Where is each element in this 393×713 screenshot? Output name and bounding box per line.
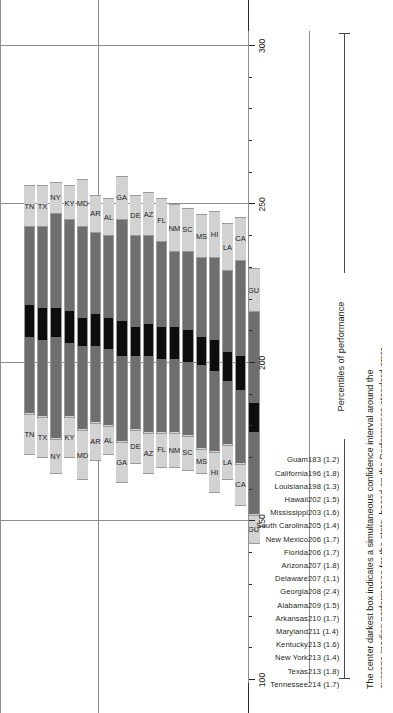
bar-label-right-TX: TX (38, 201, 47, 210)
bar-label-left-DE: DE (130, 442, 140, 451)
seg-upper-quartile-MD (78, 226, 87, 318)
seg-upper-quartile-LA (223, 270, 232, 352)
seg-confidence-interval-CA (236, 356, 245, 391)
bar-cap-left-AL: AL (103, 426, 114, 455)
bar-cap-left-TX: TX (37, 417, 48, 458)
stub-row-GA: Georgia 208 (2.4) (252, 587, 339, 596)
seg-upper-quartile-AZ (144, 235, 153, 324)
stub-frame (248, 31, 310, 683)
bar-cap-left-DE: DE (130, 430, 141, 465)
bar-cap-left-FL: FL (156, 433, 167, 468)
seg-lower-quartile-NM (170, 359, 179, 432)
seg-confidence-interval-LA (223, 352, 232, 381)
stub-state-name: Tennessee (252, 680, 308, 689)
bar-label-right-FL: FL (157, 216, 166, 225)
seg-upper-quartile-GA (117, 219, 126, 320)
stub-row-AR: Arkansas 210 (1.7) (252, 614, 339, 623)
bar-label-right-LA: LA (223, 243, 232, 252)
bar-label-left-FL: FL (157, 446, 166, 455)
bar-cap-right-TX: TX (37, 185, 48, 226)
axis-title-cap-right (339, 33, 350, 34)
stub-row-AL: Alabama 209 (1.5) (252, 601, 339, 610)
seg-upper-quartile-AR (91, 232, 100, 314)
stub-state-name: California (252, 469, 308, 478)
gridline-300 (0, 45, 248, 46)
bar-cap-right-MD: MD (77, 179, 88, 227)
bar-label-left-LA: LA (223, 458, 232, 467)
seg-upper-quartile-NM (170, 251, 179, 327)
bar-label-left-AZ: AZ (144, 449, 153, 458)
bar-cap-right-AZ: AZ (143, 192, 154, 236)
bar-label-left-AL: AL (104, 436, 113, 445)
bar-cap-left-NY: NY (50, 439, 61, 474)
seg-confidence-interval-MD (78, 318, 87, 347)
bar-label-right-AR: AR (90, 209, 100, 218)
bar-cap-left-MS: MS (196, 449, 207, 474)
bar-label-left-TN: TN (25, 430, 35, 439)
stub-state-name: Maryland (252, 627, 308, 636)
bar-label-right-CA: CA (236, 235, 246, 244)
stub-row-MD: Maryland 211 (1.4) (252, 627, 339, 636)
seg-lower-quartile-CA (236, 390, 245, 463)
stub-state-name: Delaware (252, 574, 308, 583)
bar-cap-left-AZ: AZ (143, 433, 154, 474)
stub-state-name: Mississippi (252, 508, 308, 517)
seg-upper-quartile-HI (210, 257, 219, 339)
bar-label-left-AR: AR (90, 438, 100, 447)
bar-cap-left-TN: TN (24, 414, 35, 455)
bar-AL[interactable] (103, 198, 114, 455)
bar-label-left-KY: KY (64, 433, 74, 442)
plot-area: TNTNTXTXNYNYKYKYMDMDARARALALGAGADEDEAZAZ… (0, 0, 248, 713)
state-label-column: Tennessee 214 (1.7)Texas 213 (1.8)New Yo… (248, 0, 314, 713)
seg-upper-quartile-TX (38, 226, 47, 308)
axis-title-rule-right (344, 33, 345, 273)
bar-cap-right-NM: NM (169, 204, 180, 252)
stub-state-name: Hawaii (252, 495, 308, 504)
stub-row-DE: Delaware 207 (1.1) (252, 574, 339, 583)
seg-confidence-interval-KY (65, 311, 74, 343)
bar-cap-left-CA: CA (235, 464, 246, 505)
bar-cap-left-KY: KY (64, 417, 75, 458)
stub-state-name: Arizona (252, 561, 308, 570)
bar-GA[interactable] (116, 176, 127, 484)
stub-state-name: South Carolina (252, 521, 308, 530)
bar-label-right-AL: AL (104, 213, 113, 222)
stub-state-name: Kentucky (252, 640, 308, 649)
seg-lower-quartile-NY (51, 337, 60, 438)
seg-upper-quartile-FL (157, 241, 166, 327)
stub-row-LA: Louisiana 198 (1.3) (252, 482, 339, 491)
chart-stage: TNTNTXTXNYNYKYKYMDMDARARALALGAGADEDEAZAZ… (0, 0, 393, 713)
seg-lower-quartile-KY (65, 343, 74, 416)
seg-lower-quartile-LA (223, 381, 232, 444)
bar-label-left-HI: HI (211, 468, 218, 477)
bar-cap-right-AR: AR (90, 195, 101, 233)
stub-row-NY: New York 213 (1.4) (252, 653, 339, 662)
seg-confidence-interval-GA (117, 321, 126, 356)
bar-cap-left-SC: SC (182, 436, 193, 471)
bar-AR[interactable] (90, 195, 101, 461)
bar-cap-right-KY: KY (64, 185, 75, 220)
stub-row-MS: Mississippi 203 (1.6) (252, 508, 339, 517)
bar-cap-right-TN: TN (24, 185, 35, 226)
bar-NY[interactable] (50, 182, 61, 474)
bar-label-left-NM: NM (169, 446, 181, 455)
bar-label-right-HI: HI (211, 230, 218, 239)
bar-cap-right-FL: FL (156, 198, 167, 242)
bar-label-right-NM: NM (169, 224, 181, 233)
footnote-line-2: average median performance for the state… (377, 9, 382, 689)
bar-label-left-MD: MD (77, 450, 89, 459)
axis-title-group: Percentiles of performance (330, 0, 360, 713)
bar-cap-left-AR: AR (90, 423, 101, 461)
seg-upper-quartile-MS (197, 257, 206, 336)
bar-label-left-CA: CA (236, 481, 246, 490)
stub-row-GU: Guam 183 (1.2) (252, 455, 339, 464)
seg-lower-quartile-MD (78, 346, 87, 428)
bar-cap-right-HI: HI (209, 211, 220, 259)
bar-cap-left-GA: GA (116, 442, 127, 483)
seg-lower-quartile-SC (183, 362, 192, 435)
seg-upper-quartile-SC (183, 251, 192, 330)
stub-state-name: Florida (252, 548, 308, 557)
seg-confidence-interval-FL (157, 327, 166, 359)
stub-state-name: Georgia (252, 587, 308, 596)
bar-cap-left-LA: LA (222, 445, 233, 480)
